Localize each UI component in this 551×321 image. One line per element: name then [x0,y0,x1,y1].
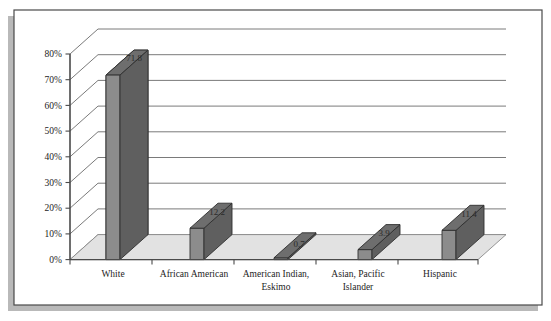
y-tick-label: 50% [45,126,63,136]
category-label-african-american: African American [160,269,229,279]
y-tick-label: 0% [49,255,62,265]
y-tick-label: 40% [45,152,63,162]
y-tick-label: 80% [45,49,63,59]
bar-value-label: 3.9 [378,228,390,238]
bar-value-label: 0.7 [293,239,305,249]
chart-figure: 80% 70% 60% 50% 40% 30% 20% 10% 0% 71.8 … [0,0,551,321]
bar-white[interactable]: 71.8 [106,50,148,260]
category-label-asian-pacific-islander-line2: Islander [343,282,374,292]
bar-value-label: 11.4 [461,209,477,219]
category-label-american-indian-eskimo-line2: Eskimo [261,282,290,292]
y-tick-label: 60% [45,101,63,111]
y-tick-label: 30% [45,178,63,188]
y-axis-tick-labels: 80% 70% 60% 50% 40% 30% 20% 10% 0% [45,49,63,265]
y-tick-label: 10% [45,229,63,239]
category-label-white: White [101,269,124,279]
y-tick-label: 20% [45,203,63,213]
bar-value-label: 71.8 [126,53,142,63]
back-wall [98,29,506,262]
bar-value-label: 12.2 [209,207,225,217]
category-label-hispanic: Hispanic [423,269,457,279]
y-tick-label: 70% [45,75,63,85]
bar-chart-3d: 80% 70% 60% 50% 40% 30% 20% 10% 0% 71.8 … [0,0,551,321]
category-label-american-indian-eskimo-line1: American Indian, [243,269,309,279]
category-label-asian-pacific-islander-line1: Asian, Pacific [331,269,384,279]
